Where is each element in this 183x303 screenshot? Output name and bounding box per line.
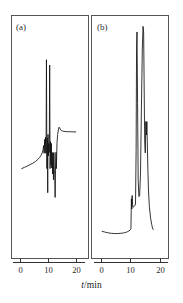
panel-a-label: (a)	[16, 22, 26, 32]
panel-b-label: (b)	[97, 22, 108, 32]
axis-tick-label: 20	[72, 265, 81, 275]
panel-a-xaxis: 01020	[13, 259, 85, 276]
axis-tick-label: 0	[99, 265, 103, 275]
axis-tick-label: 0	[18, 265, 22, 275]
x-axis-title: t/min	[0, 280, 183, 290]
axis-tick-label: 20	[156, 265, 165, 275]
axis-tick-label: 10	[126, 265, 135, 275]
panel-b-trace	[102, 26, 153, 233]
chromatogram-figure: (a) (b) 01020 01020	[0, 0, 183, 303]
figure-container: (a) (b) 01020 01020 t/min	[0, 0, 183, 303]
axis-tick-label: 10	[44, 265, 53, 275]
panel-b-frame	[92, 16, 169, 259]
panel-b-xaxis: 01020	[94, 259, 168, 276]
x-axis-title-unit: /min	[84, 280, 102, 290]
panel-a-trace	[22, 60, 76, 198]
